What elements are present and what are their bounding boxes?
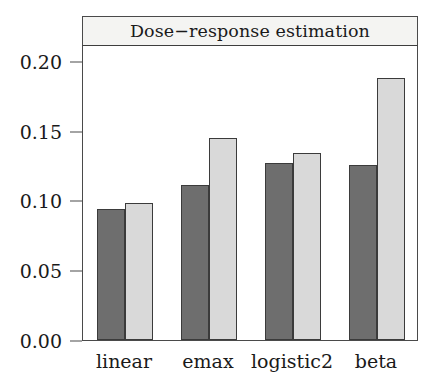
bar-logistic2-light [293, 153, 321, 340]
x-tick-label-logistic2: logistic2 [251, 350, 333, 372]
plot-panel [82, 45, 418, 341]
bar-linear-dark [97, 209, 125, 340]
plot-area [83, 46, 417, 340]
y-tick-label: 0.00 [20, 330, 62, 352]
x-tick-label-emax: emax [182, 350, 233, 372]
y-tick-label: 0.05 [20, 260, 62, 282]
strip-header: Dose−response estimation [82, 16, 418, 46]
bar-beta-light [377, 78, 405, 340]
x-tick-label-beta: beta [355, 350, 397, 372]
y-tick-mark [70, 201, 82, 202]
bar-beta-dark [349, 165, 377, 340]
y-tick-label: 0.20 [20, 51, 62, 73]
x-tick-label-linear: linear [96, 350, 152, 372]
y-tick-mark [70, 131, 82, 132]
y-tick-mark [70, 341, 82, 342]
bar-emax-light [209, 138, 237, 340]
bar-linear-light [125, 203, 153, 340]
x-axis: linearemaxlogistic2beta [82, 344, 418, 388]
chart-figure: Dose−response estimation 0.000.050.100.1… [0, 0, 435, 388]
y-axis: 0.000.050.100.150.20 [0, 0, 82, 388]
bar-emax-dark [181, 185, 209, 340]
y-tick-mark [70, 61, 82, 62]
y-tick-label: 0.10 [20, 190, 62, 212]
bar-logistic2-dark [265, 163, 293, 340]
chart-title: Dose−response estimation [130, 21, 370, 41]
y-tick-label: 0.15 [20, 121, 62, 143]
y-tick-mark [70, 271, 82, 272]
